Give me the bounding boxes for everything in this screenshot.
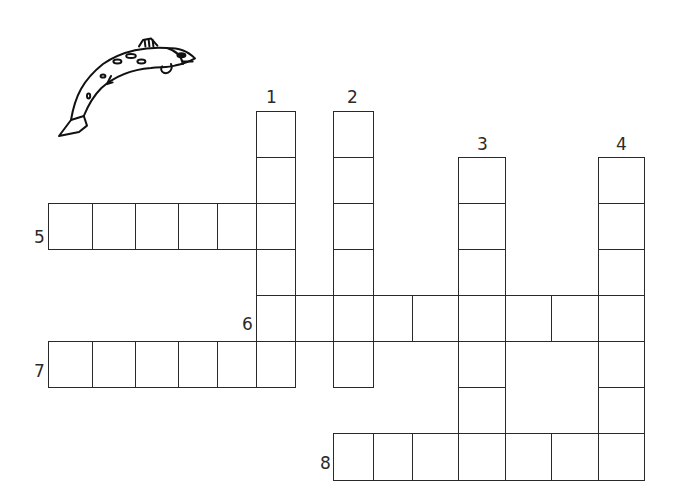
clue-number-6: 6 (242, 316, 253, 333)
clue-number-8: 8 (320, 455, 331, 472)
crossword-puzzle: 12345678 (0, 0, 681, 504)
grid-cell[interactable] (505, 295, 552, 342)
clue-number-1: 1 (266, 89, 277, 106)
grid-cell[interactable] (333, 295, 374, 342)
grid-cell[interactable] (458, 249, 506, 296)
grid-cell[interactable] (458, 433, 506, 481)
clue-number-5: 5 (34, 229, 45, 246)
grid-cell[interactable] (217, 203, 257, 250)
grid-cell[interactable] (333, 341, 374, 388)
grid-cell[interactable] (598, 157, 645, 204)
grid-cell[interactable] (505, 433, 552, 481)
grid-cell[interactable] (48, 203, 93, 250)
grid-cell[interactable] (256, 295, 296, 342)
grid-cell[interactable] (92, 341, 136, 388)
fish-icon (50, 20, 220, 140)
grid-cell[interactable] (333, 433, 374, 481)
grid-cell[interactable] (598, 295, 645, 342)
grid-cell[interactable] (373, 295, 413, 342)
grid-cell[interactable] (92, 203, 136, 250)
grid-cell[interactable] (178, 203, 218, 250)
clue-number-3: 3 (477, 136, 488, 153)
grid-cell[interactable] (333, 111, 374, 158)
grid-cell[interactable] (458, 341, 506, 388)
grid-cell[interactable] (48, 341, 93, 388)
clue-number-4: 4 (616, 136, 627, 153)
grid-cell[interactable] (598, 341, 645, 388)
grid-cell[interactable] (551, 295, 599, 342)
grid-cell[interactable] (598, 387, 645, 434)
grid-cell[interactable] (333, 157, 374, 204)
grid-cell[interactable] (256, 203, 296, 250)
grid-cell[interactable] (598, 203, 645, 250)
grid-cell[interactable] (256, 341, 296, 388)
grid-cell[interactable] (178, 341, 218, 388)
grid-cell[interactable] (458, 157, 506, 204)
grid-cell[interactable] (598, 249, 645, 296)
grid-cell[interactable] (458, 387, 506, 434)
grid-cell[interactable] (217, 341, 257, 388)
grid-cell[interactable] (458, 295, 506, 342)
grid-cell[interactable] (598, 433, 645, 481)
grid-cell[interactable] (458, 203, 506, 250)
grid-cell[interactable] (295, 295, 334, 342)
grid-cell[interactable] (373, 433, 413, 481)
grid-cell[interactable] (256, 111, 296, 158)
grid-cell[interactable] (333, 203, 374, 250)
grid-cell[interactable] (551, 433, 599, 481)
grid-cell[interactable] (256, 157, 296, 204)
clue-number-2: 2 (347, 89, 358, 106)
clue-number-7: 7 (34, 363, 45, 380)
grid-cell[interactable] (333, 249, 374, 296)
grid-cell[interactable] (135, 203, 179, 250)
grid-cell[interactable] (412, 295, 459, 342)
grid-cell[interactable] (412, 433, 459, 481)
grid-cell[interactable] (135, 341, 179, 388)
grid-cell[interactable] (256, 249, 296, 296)
